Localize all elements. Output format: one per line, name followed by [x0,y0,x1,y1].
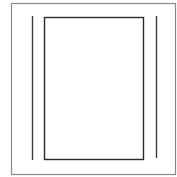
panel-diagram [0,0,177,177]
diagram-canvas [0,0,177,177]
inner-panel [45,18,144,160]
outer-frame [12,4,176,175]
